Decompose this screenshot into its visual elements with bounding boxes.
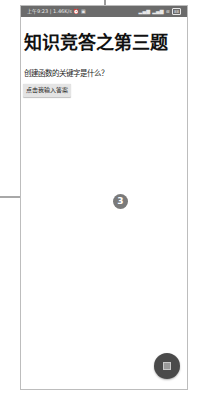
alarm-icon: ⏰	[73, 8, 79, 14]
signal-icon: ▂▄▆	[139, 6, 151, 17]
wifi-icon: ≋	[166, 6, 170, 17]
battery-icon: 88	[172, 8, 181, 15]
input-answer-button[interactable]: 点击我输入答案	[23, 84, 71, 97]
screenshot-canvas: 上午9:23 | 1.46K/s ⏰ ▣ ▂▄▆ ▂▄▆ ≋ 88 知识竞答之第…	[0, 0, 199, 394]
notification-icon: ▣	[81, 8, 86, 14]
left-pointer-line	[0, 196, 20, 198]
status-time: 上午9:23	[27, 8, 48, 14]
phone-screen: 上午9:23 | 1.46K/s ⏰ ▣ ▂▄▆ ▂▄▆ ≋ 88 知识竞答之第…	[20, 5, 188, 390]
status-right: ▂▄▆ ▂▄▆ ≋ 88	[139, 6, 181, 17]
status-network-speed: 1.46K/s	[53, 8, 72, 14]
page-title: 知识竞答之第三题	[24, 28, 168, 54]
annotation-badge: 3	[113, 194, 128, 209]
question-text: 创建函数的关键字是什么？	[24, 67, 108, 78]
status-left: 上午9:23 | 1.46K/s ⏰ ▣	[27, 6, 86, 17]
status-separator: |	[50, 8, 52, 14]
floating-action-button[interactable]	[154, 353, 180, 379]
status-bar: 上午9:23 | 1.46K/s ⏰ ▣ ▂▄▆ ▂▄▆ ≋ 88	[21, 6, 187, 17]
signal-icon-2: ▂▄▆	[152, 6, 164, 17]
stop-icon	[163, 362, 171, 370]
